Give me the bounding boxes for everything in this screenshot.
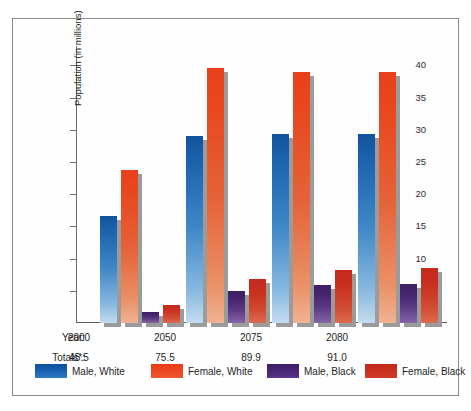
year-value: 2080 <box>302 332 372 343</box>
bar-face <box>335 270 352 323</box>
legend-swatch <box>267 364 299 378</box>
bar-group <box>272 46 356 323</box>
bar[interactable] <box>142 312 159 323</box>
y-tick-mark <box>70 291 76 292</box>
y-tick-mark <box>70 65 76 66</box>
chart-legend: Male, WhiteFemale, WhiteMale, BlackFemal… <box>35 363 445 381</box>
year-value: 2000 <box>44 332 114 343</box>
bar-face <box>207 68 224 323</box>
bar[interactable] <box>186 136 203 323</box>
bar[interactable] <box>272 134 289 323</box>
bar-face <box>228 291 245 323</box>
total-value: 89.9 <box>216 352 286 363</box>
bar-face <box>272 134 289 323</box>
bar[interactable] <box>421 268 438 323</box>
bar-face <box>121 170 138 323</box>
y-tick-mark <box>70 194 76 195</box>
y-tick-mark <box>70 226 76 227</box>
y-axis-title: Population (in millions) <box>72 0 83 106</box>
y-tick-mark <box>70 162 76 163</box>
total-value: 75.5 <box>130 352 200 363</box>
bar-face <box>400 284 417 323</box>
bar[interactable] <box>163 305 180 323</box>
bar-face <box>186 136 203 323</box>
year-value: 2075 <box>216 332 286 343</box>
y-tick-mark <box>70 130 76 131</box>
bar[interactable] <box>358 134 375 323</box>
legend-swatch <box>365 364 397 378</box>
legend-label: Male, White <box>72 366 125 377</box>
bar-face <box>249 279 266 323</box>
legend-label: Female, Black <box>402 366 465 377</box>
bar[interactable] <box>400 284 417 323</box>
bar-face <box>142 312 159 323</box>
bar-face <box>314 285 331 323</box>
bar-face <box>163 305 180 323</box>
legend-item[interactable]: Male, White <box>35 363 125 379</box>
bar[interactable] <box>228 291 245 323</box>
y-tick-mark <box>70 259 76 260</box>
bar[interactable] <box>249 279 266 323</box>
bar[interactable] <box>207 68 224 323</box>
plot-area: Population (in millions) 403530252015105 <box>76 46 436 323</box>
y-tick-mark <box>70 98 76 99</box>
bar[interactable] <box>293 72 310 323</box>
legend-label: Male, Black <box>304 366 356 377</box>
bar[interactable] <box>100 216 117 323</box>
bar[interactable] <box>314 285 331 323</box>
bar-group <box>186 46 270 323</box>
bar-face <box>421 268 438 323</box>
bar-group <box>358 46 442 323</box>
bar[interactable] <box>335 270 352 323</box>
bar[interactable] <box>121 170 138 323</box>
bar-face <box>379 72 396 323</box>
total-value: 45.5 <box>44 352 114 363</box>
legend-item[interactable]: Female, White <box>151 363 252 379</box>
legend-item[interactable]: Male, Black <box>267 363 356 379</box>
bar-face <box>358 134 375 323</box>
chart-figure: Population (in millions) 403530252015105… <box>12 18 459 396</box>
bar[interactable] <box>379 72 396 323</box>
year-value: 2050 <box>130 332 200 343</box>
legend-swatch <box>35 364 67 378</box>
total-value: 91.0 <box>302 352 372 363</box>
bar-face <box>293 72 310 323</box>
bar-group <box>100 46 184 323</box>
legend-label: Female, White <box>188 366 252 377</box>
legend-swatch <box>151 364 183 378</box>
legend-item[interactable]: Female, Black <box>365 363 465 379</box>
bar-face <box>100 216 117 323</box>
